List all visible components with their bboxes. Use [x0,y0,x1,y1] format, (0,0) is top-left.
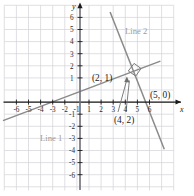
y-tick-neg-6: -6 [69,172,75,180]
y-tick-neg-1: -1 [69,111,75,119]
x-tick-5: 5 [136,106,140,114]
x-tick-neg-6: -6 [13,106,19,114]
line-2-label: Line 2 [125,26,147,36]
y-tick-6: 6 [70,14,74,22]
x-tick-4: 4 [124,106,128,114]
y-tick-neg-5: -5 [69,159,75,167]
point-label-2-1: (2, 1) [92,73,112,84]
line-1-label: Line 1 [40,133,62,143]
y-tick-neg-4: -4 [69,147,75,155]
coordinate-plane-figure: -6 -5 -4 -3 -2 -1 1 2 3 4 5 6 6 5 4 3 2 … [0,0,194,196]
x-axis-label: x [179,105,184,114]
x-tick-neg-2: -2 [62,106,68,114]
x-axis-arrow [176,100,182,105]
x-tick-neg-4: -4 [38,106,44,114]
y-tick-1: 1 [70,75,74,83]
grid-lines [4,5,173,190]
y-tick-5: 5 [70,26,74,34]
graph-canvas: -6 -5 -4 -3 -2 -1 1 2 3 4 5 6 6 5 4 3 2 … [0,0,194,196]
y-tick-2: 2 [70,63,74,71]
x-tick-neg-5: -5 [26,106,32,114]
y-tick-neg-3: -3 [69,135,75,143]
x-tick-6: 6 [148,106,152,114]
x-tick-1: 1 [87,106,91,114]
tick-marks [16,17,149,174]
y-tick-4: 4 [70,38,74,46]
x-tick-3: 3 [111,106,115,114]
point-label-5-0: (5, 0) [150,90,170,101]
x-tick-neg-3: -3 [50,106,56,114]
x-tick-2: 2 [99,106,103,114]
y-tick-neg-2: -2 [69,123,75,131]
y-axis-label: y [71,2,76,11]
y-tick-3: 3 [70,51,74,59]
point-label-4-2: (4, 2) [114,115,134,126]
